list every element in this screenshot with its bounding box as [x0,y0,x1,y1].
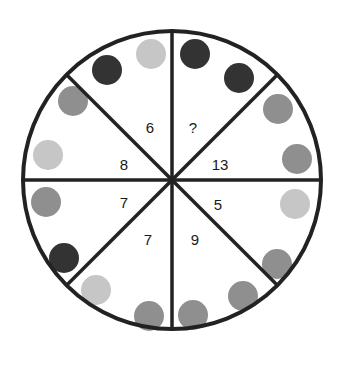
segment-number: 5 [214,196,222,213]
segment-number: 7 [120,194,128,211]
segment-number: 6 [146,119,154,136]
medium-circle [31,187,61,217]
dark-circle [180,39,210,69]
segment-number: 13 [212,156,229,173]
dark-circle [92,55,122,85]
number-wheel-puzzle: 6?1359778 [0,0,339,365]
dark-circle [224,63,254,93]
segment-number: 9 [191,231,199,248]
unknown-number: ? [189,119,197,136]
light-circle [136,39,166,69]
light-circle [280,189,310,219]
medium-circle [263,94,293,124]
segment-number: 7 [144,231,152,248]
medium-circle [282,144,312,174]
segment-number: 8 [120,156,128,173]
light-circle [33,140,63,170]
